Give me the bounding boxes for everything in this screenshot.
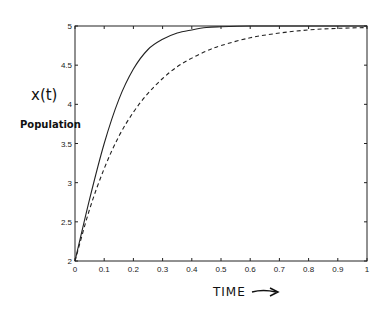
x-tick-label: 0.5 [215,265,227,274]
x-tick-label: 0 [73,265,78,274]
population-chart: 00.10.20.30.40.50.60.70.80.91 22.533.544… [0,0,389,313]
y-tick-label: 2.5 [61,218,73,227]
y-tick-label: 2 [68,257,73,266]
y-axis-sublabel: Population [20,119,81,130]
x-axis-label: TIME [212,285,246,299]
series-solid-line [75,26,367,261]
x-tick-label: 0.9 [332,265,344,274]
y-tick-label: 3.5 [61,140,73,149]
time-arrow-icon [252,288,278,296]
y-tick-label: 3 [68,179,73,188]
y-tick-label: 4.5 [61,61,73,70]
y-tick-label: 4 [68,100,73,109]
y-tick-labels: 22.533.544.55 [61,22,73,266]
x-tick-label: 0.8 [303,265,315,274]
x-tick-label: 0.1 [99,265,111,274]
x-tick-label: 0.3 [157,265,169,274]
y-axis-label: x(t) [31,86,57,104]
plot-frame [75,26,367,261]
x-tick-label: 0.7 [274,265,286,274]
x-tick-label: 0.2 [128,265,140,274]
x-tick-label: 0.6 [245,265,257,274]
y-tick-label: 5 [68,22,73,31]
axis-ticks [75,26,367,261]
x-tick-labels: 00.10.20.30.40.50.60.70.80.91 [73,265,370,274]
series-group [75,26,367,261]
series-dashed-line [75,28,367,261]
x-tick-label: 1 [365,265,370,274]
x-tick-label: 0.4 [186,265,198,274]
